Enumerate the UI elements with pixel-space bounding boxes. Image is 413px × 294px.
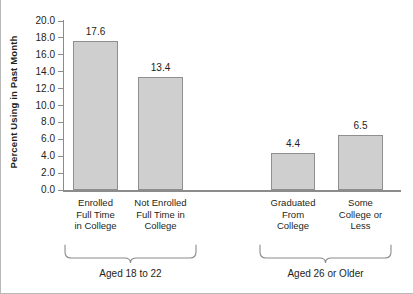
bar-value-label: 4.4: [259, 138, 327, 150]
y-tick-mark: [58, 88, 63, 89]
y-tick-label: 16.0: [36, 49, 55, 61]
y-tick-mark: [58, 190, 63, 191]
bar-value-label: 17.6: [61, 26, 130, 38]
bar: [73, 41, 118, 190]
y-tick: 14.0: [1, 66, 63, 78]
x-category-label: SomeCollege orLess: [321, 197, 400, 232]
y-tick-label: 8.0: [41, 116, 55, 128]
y-tick-label: 12.0: [36, 83, 55, 95]
y-tick-label: 20.0: [36, 15, 55, 27]
y-tick: 8.0: [1, 116, 63, 128]
y-tick: 10.0: [1, 100, 63, 112]
x-category-label-line: Less: [321, 220, 400, 232]
y-tick-mark: [58, 21, 63, 22]
x-category-label-line: Some: [321, 197, 400, 209]
y-tick: 0.0: [1, 184, 63, 196]
y-tick: 16.0: [1, 49, 63, 61]
y-axis-line: [63, 20, 64, 191]
y-tick: 6.0: [1, 133, 63, 145]
x-category-label-line: Not Enrolled: [121, 197, 200, 209]
y-tick: 18.0: [1, 32, 63, 44]
y-tick-label: 2.0: [41, 167, 55, 179]
y-tick-label: 18.0: [36, 32, 55, 44]
y-tick: 20.0: [1, 15, 63, 27]
x-category-label-line: College or: [321, 209, 400, 221]
x-category-label-line: Full Time in: [121, 209, 200, 221]
bar: [338, 135, 383, 190]
y-tick: 2.0: [1, 167, 63, 179]
bar-value-label: 6.5: [326, 120, 395, 132]
bar-chart-figure: Percent Using in Past Month 20.018.016.0…: [0, 0, 413, 294]
x-category-label: Not EnrolledFull Time inCollege: [121, 197, 200, 232]
y-tick-mark: [58, 156, 63, 157]
y-tick-mark: [58, 122, 63, 123]
y-tick-label: 0.0: [41, 184, 55, 196]
y-tick-mark: [58, 54, 63, 55]
group-label: Aged 18 to 22: [64, 268, 197, 280]
group-brace: [64, 244, 197, 260]
x-axis-line: [63, 190, 401, 192]
y-tick: 4.0: [1, 150, 63, 162]
y-tick-mark: [58, 173, 63, 174]
y-tick: 12.0: [1, 83, 63, 95]
group-label: Aged 26 or Older: [259, 268, 392, 280]
bar: [271, 153, 315, 190]
y-tick-label: 14.0: [36, 66, 55, 78]
y-tick-mark: [58, 105, 63, 106]
y-tick-label: 4.0: [41, 150, 55, 162]
bar: [138, 77, 183, 190]
group-brace: [259, 244, 392, 260]
y-tick-mark: [58, 139, 63, 140]
bar-value-label: 13.4: [126, 62, 195, 74]
y-tick-mark: [58, 71, 63, 72]
y-tick-label: 10.0: [36, 100, 55, 112]
x-category-label-line: College: [121, 220, 200, 232]
y-tick-label: 6.0: [41, 133, 55, 145]
